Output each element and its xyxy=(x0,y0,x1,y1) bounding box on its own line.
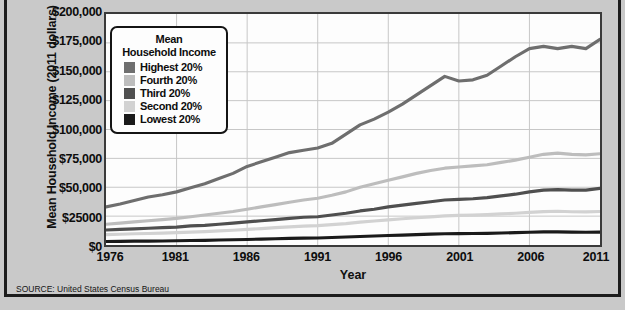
x-axis-tick-label: 1976 xyxy=(96,250,123,264)
x-axis-tick-labels: 19761981198619911996200120062011 xyxy=(104,250,602,270)
y-axis-tick-label: $100,000 xyxy=(18,123,102,137)
chart-figure: Mean Household Income (2011 dollars) $20… xyxy=(0,0,625,310)
legend-entry: Second 20% xyxy=(124,100,220,112)
x-axis-tick-label: 1986 xyxy=(233,250,260,264)
legend-title: Mean Household Income xyxy=(118,33,220,58)
chart-legend: Mean Household Income Highest 20%Fourth … xyxy=(110,26,228,134)
legend-title-line-2: Household Income xyxy=(118,46,220,59)
source-note: SOURCE: United States Census Bureau xyxy=(16,284,169,294)
x-axis-tick-label: 2001 xyxy=(446,250,473,264)
legend-entry-label: Fourth 20% xyxy=(140,74,197,86)
y-axis-tick-label: $75,000 xyxy=(18,152,102,166)
legend-entry-label: Second 20% xyxy=(140,100,202,112)
legend-entry: Fourth 20% xyxy=(124,74,220,86)
x-axis-tick-label: 1996 xyxy=(375,250,402,264)
legend-entry-label: Third 20% xyxy=(140,87,190,99)
swatch-highest xyxy=(124,62,135,73)
swatch-second xyxy=(124,101,135,112)
x-axis-tick-label: 1991 xyxy=(304,250,331,264)
legend-entry: Highest 20% xyxy=(124,61,220,73)
legend-title-line-1: Mean xyxy=(118,33,220,46)
x-axis-tick-label: 1981 xyxy=(162,250,189,264)
swatch-lowest xyxy=(124,114,135,125)
y-axis-tick-label: $125,000 xyxy=(18,93,102,107)
x-axis-title: Year xyxy=(104,268,602,282)
y-axis-tick-label: $25000 xyxy=(18,211,102,225)
x-axis-tick-label: 2011 xyxy=(583,250,609,264)
x-axis-tick-label: 2006 xyxy=(517,250,544,264)
swatch-third xyxy=(124,88,135,99)
y-axis-tick-label: $150,000 xyxy=(18,64,102,78)
legend-entry-label: Lowest 20% xyxy=(140,113,200,125)
y-axis-tick-label: $200,000 xyxy=(18,5,102,19)
y-axis-tick-label: $175,000 xyxy=(18,34,102,48)
y-axis-tick-label: $50,000 xyxy=(18,181,102,195)
y-axis-tick-label: $0 xyxy=(18,240,102,254)
legend-entries: Highest 20%Fourth 20%Third 20%Second 20%… xyxy=(118,61,220,125)
legend-entry-label: Highest 20% xyxy=(140,61,202,73)
legend-entry: Third 20% xyxy=(124,87,220,99)
legend-entry: Lowest 20% xyxy=(124,113,220,125)
swatch-fourth xyxy=(124,75,135,86)
y-axis-tick-labels: $200,000$175,000$150,000$125,000$100,000… xyxy=(18,0,102,310)
